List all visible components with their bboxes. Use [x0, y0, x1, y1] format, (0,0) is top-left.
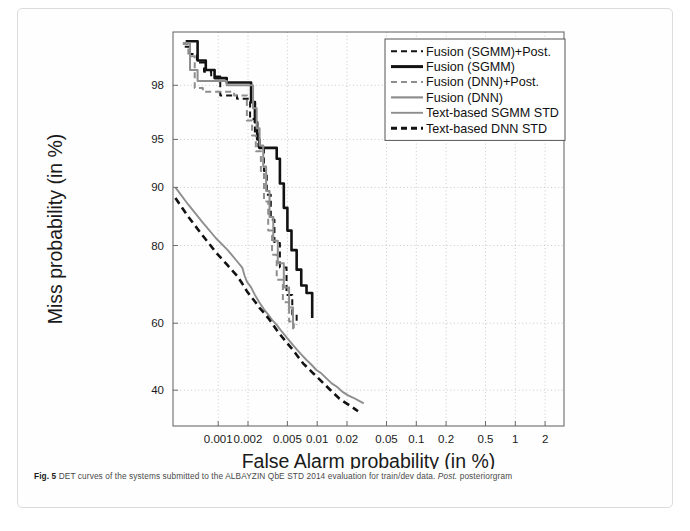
x-tick-label: 1: [512, 433, 518, 445]
x-tick-label: 0.002: [234, 433, 263, 445]
legend-label: Text-based DNN STD: [426, 122, 547, 136]
caption-italic-term: Post.: [438, 471, 457, 481]
figure-card: 0.0010.0020.0050.010.020.050.10.20.51298…: [17, 8, 673, 508]
legend: Fusion (SGMM)+Post.Fusion (SGMM)Fusion (…: [385, 39, 565, 140]
figure-caption: Fig. 5 DET curves of the systems submitt…: [18, 471, 674, 482]
x-tick-label: 0.001: [204, 433, 233, 445]
y-tick-label: 98: [151, 79, 164, 91]
series-line: [183, 43, 293, 329]
y-tick-label: 95: [151, 133, 164, 145]
chart-svg: 0.0010.0020.0050.010.020.050.10.20.51298…: [18, 9, 674, 469]
x-tick-label: 0.5: [478, 433, 494, 445]
x-tick-label: 0.02: [336, 433, 358, 445]
x-tick-label: 0.2: [438, 433, 454, 445]
y-tick-label: 40: [151, 384, 164, 396]
legend-label: Fusion (SGMM)+Post.: [426, 45, 551, 59]
legend-label: Fusion (DNN): [426, 91, 503, 105]
x-tick-label: 2: [542, 433, 548, 445]
x-axis-title: False Alarm probability (in %): [242, 450, 496, 469]
series-line: [175, 187, 363, 403]
legend-label: Fusion (DNN)+Post.: [426, 75, 539, 89]
caption-label: Fig. 5: [34, 471, 56, 481]
x-tick-label: 0.005: [273, 433, 302, 445]
x-tick-label: 0.1: [408, 433, 424, 445]
legend-label: Text-based SGMM STD: [426, 106, 559, 120]
y-tick-label: 90: [151, 181, 164, 193]
series-group: [175, 41, 363, 411]
caption-body: DET curves of the systems submitted to t…: [56, 471, 438, 481]
y-tick-label: 60: [151, 317, 164, 329]
caption-tail: posteriorgram: [457, 471, 512, 481]
y-axis-title: Miss probability (in %): [44, 134, 66, 325]
series-line: [183, 44, 294, 328]
series-line: [175, 198, 358, 411]
det-curve-chart: 0.0010.0020.0050.010.020.050.10.20.51298…: [18, 9, 674, 469]
y-tick-label: 80: [151, 240, 164, 252]
x-tick-label: 0.01: [306, 433, 328, 445]
legend-label: Fusion (SGMM): [426, 60, 515, 74]
series-line: [186, 41, 313, 318]
x-tick-label: 0.05: [375, 433, 397, 445]
